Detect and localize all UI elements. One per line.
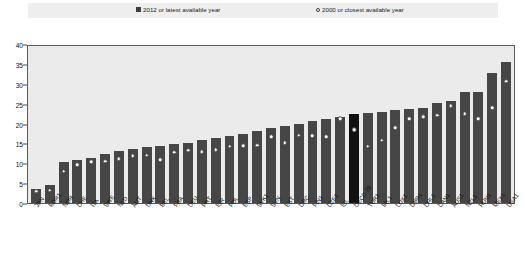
x-tick-cell: NLD bbox=[111, 205, 125, 245]
x-tick-cell: JPN bbox=[28, 205, 42, 245]
bar-group[interactable] bbox=[472, 46, 486, 203]
bar-group[interactable] bbox=[181, 46, 195, 203]
x-tick-cell: AUS1 bbox=[445, 205, 459, 245]
bar[interactable] bbox=[418, 108, 428, 203]
bar-group[interactable] bbox=[333, 46, 347, 203]
previous-year-marker bbox=[296, 133, 301, 138]
bar[interactable] bbox=[155, 146, 165, 203]
bar[interactable] bbox=[86, 158, 96, 203]
bar-group[interactable] bbox=[292, 46, 306, 203]
bar[interactable] bbox=[377, 112, 387, 203]
bar[interactable] bbox=[335, 117, 345, 203]
x-tick-cell: NZL1 bbox=[459, 205, 473, 245]
bar[interactable] bbox=[446, 101, 456, 203]
bar[interactable] bbox=[404, 109, 414, 203]
bar[interactable] bbox=[432, 103, 442, 203]
y-tick-label: 15 bbox=[16, 141, 23, 148]
previous-year-marker bbox=[379, 138, 384, 143]
previous-year-marker bbox=[89, 160, 94, 165]
bar-group[interactable] bbox=[223, 46, 237, 203]
previous-year-marker bbox=[255, 143, 260, 148]
bar[interactable] bbox=[266, 128, 276, 203]
bar-group[interactable] bbox=[499, 46, 513, 203]
bar-group[interactable] bbox=[112, 46, 126, 203]
plot-area bbox=[27, 45, 515, 204]
x-tick-cell: CAN1 bbox=[431, 205, 445, 245]
bar[interactable] bbox=[460, 92, 470, 203]
bar[interactable] bbox=[473, 92, 483, 203]
bar-group[interactable] bbox=[264, 46, 278, 203]
previous-year-marker bbox=[310, 133, 315, 138]
bar[interactable] bbox=[280, 126, 290, 203]
previous-year-marker bbox=[407, 116, 412, 121]
x-tick-cell: HUN1 bbox=[473, 205, 487, 245]
previous-year-marker bbox=[504, 79, 509, 84]
bar-group[interactable] bbox=[140, 46, 154, 203]
previous-year-marker bbox=[490, 105, 495, 110]
bar-group[interactable] bbox=[70, 46, 84, 203]
bar-group[interactable] bbox=[402, 46, 416, 203]
bar-group[interactable] bbox=[389, 46, 403, 203]
bar-group[interactable] bbox=[236, 46, 250, 203]
x-tick-cell: ITA bbox=[84, 205, 98, 245]
bar-group[interactable] bbox=[444, 46, 458, 203]
previous-year-marker bbox=[103, 159, 108, 164]
previous-year-marker bbox=[269, 135, 274, 140]
bar-group[interactable] bbox=[485, 46, 499, 203]
previous-year-marker bbox=[34, 189, 39, 194]
bar-group[interactable] bbox=[250, 46, 264, 203]
bar[interactable] bbox=[390, 110, 400, 203]
previous-year-marker bbox=[47, 188, 52, 193]
bar-group[interactable] bbox=[306, 46, 320, 203]
bar-group[interactable] bbox=[57, 46, 71, 203]
x-tick-cell: FRA bbox=[167, 205, 181, 245]
bar-group[interactable] bbox=[98, 46, 112, 203]
bar-group[interactable] bbox=[361, 46, 375, 203]
x-tick-cell: OECD 28 bbox=[347, 205, 361, 245]
previous-year-marker bbox=[448, 104, 453, 109]
bar-group[interactable] bbox=[319, 46, 333, 203]
previous-year-marker bbox=[172, 150, 177, 155]
previous-year-marker bbox=[75, 162, 80, 167]
y-tick-label: 30 bbox=[16, 81, 23, 88]
bar-group[interactable] bbox=[126, 46, 140, 203]
x-tick-cell: IRL1 bbox=[375, 205, 389, 245]
legend-label-previous: 2000 or closest available year bbox=[322, 5, 404, 14]
previous-year-marker bbox=[338, 117, 343, 122]
x-tick-cell: CZE1 bbox=[320, 205, 334, 245]
bar[interactable] bbox=[252, 131, 262, 203]
legend-item-current: 2012 or latest available year bbox=[136, 5, 220, 14]
bar-group[interactable] bbox=[167, 46, 181, 203]
x-tick-cell: SWE bbox=[97, 205, 111, 245]
bar-group[interactable] bbox=[29, 46, 43, 203]
x-tick-cell: SVN bbox=[264, 205, 278, 245]
x-tick-cell: BEL bbox=[153, 205, 167, 245]
bar-group[interactable] bbox=[458, 46, 472, 203]
y-tick-label: 10 bbox=[16, 161, 23, 168]
bar-group[interactable] bbox=[43, 46, 57, 203]
bar-group[interactable] bbox=[416, 46, 430, 203]
previous-year-marker bbox=[421, 114, 426, 119]
y-tick-label: 40 bbox=[16, 42, 23, 49]
bar-group[interactable] bbox=[278, 46, 292, 203]
bar[interactable] bbox=[487, 73, 497, 203]
x-tick-cell: ISL bbox=[334, 205, 348, 245]
x-tick-cell: ISR bbox=[209, 205, 223, 245]
bar-group[interactable] bbox=[153, 46, 167, 203]
bar-group[interactable] bbox=[430, 46, 444, 203]
y-tick-label: 35 bbox=[16, 61, 23, 68]
bar-group[interactable] bbox=[347, 46, 361, 203]
filled-square-icon bbox=[136, 7, 141, 12]
bar-group[interactable] bbox=[84, 46, 98, 203]
previous-year-marker bbox=[352, 128, 357, 133]
previous-year-marker bbox=[144, 153, 149, 158]
x-tick-cell: MEX1 bbox=[486, 205, 500, 245]
bar-group[interactable] bbox=[195, 46, 209, 203]
bar-group[interactable] bbox=[209, 46, 223, 203]
bar[interactable] bbox=[321, 119, 331, 203]
bar-group[interactable] bbox=[375, 46, 389, 203]
x-tick-cell: TUR1 bbox=[361, 205, 375, 245]
x-axis: JPNKOR1NORCHEITASWENLDAUTDNKBELFRADEUPRT… bbox=[27, 205, 515, 245]
x-tick-cell: GBR1 bbox=[403, 205, 417, 245]
x-tick-cell: SVK1 bbox=[250, 205, 264, 245]
